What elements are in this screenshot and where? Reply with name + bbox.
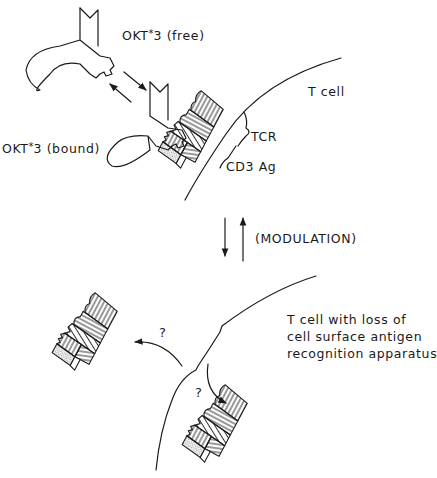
t-cell-membrane-lower <box>156 276 316 470</box>
okt3-free-antibody <box>26 8 114 91</box>
label-question-internalized: ? <box>195 386 203 399</box>
okt3-free-prefix: OKT <box>122 28 149 43</box>
shed-tcr-cd3-complex <box>49 288 120 375</box>
label-t-cell-loss: T cell with loss of cell surface antigen… <box>287 311 437 362</box>
tcr-cd3-complex-bound <box>155 86 226 173</box>
label-cd3-ag: CD3 Ag <box>226 161 276 174</box>
internalized-tcr-cd3-complex <box>179 380 250 467</box>
label-tcr: TCR <box>251 131 277 144</box>
label-question-shed: ? <box>159 326 167 339</box>
shedding-arrow <box>135 342 182 366</box>
okt3-bound-suffix: 3 (bound) <box>34 141 100 156</box>
label-okt3-free: OKT*3 (free) <box>122 29 205 43</box>
label-modulation: (MODULATION) <box>255 233 357 246</box>
okt3-free-suffix: 3 (free) <box>154 28 205 43</box>
binding-arrow-reverse <box>110 84 131 102</box>
label-t-cell: T cell <box>308 86 345 99</box>
binding-arrow-forward <box>124 72 146 90</box>
okt3-bound-prefix: OKT <box>2 141 29 156</box>
label-okt3-bound: OKT*3 (bound) <box>2 142 100 156</box>
